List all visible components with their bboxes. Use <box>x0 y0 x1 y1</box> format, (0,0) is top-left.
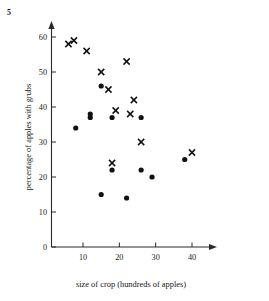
y-axis-ticks <box>52 37 57 247</box>
data-point-dot <box>139 115 144 120</box>
data-point-dot <box>88 111 93 116</box>
data-point-cross <box>84 48 90 54</box>
data-point-dot <box>149 174 154 179</box>
x-tick-label: 40 <box>188 253 196 262</box>
data-point-cross <box>65 41 71 47</box>
data-point-dot <box>73 125 78 130</box>
y-axis-arrow-icon <box>48 21 54 29</box>
x-tick-label: 30 <box>152 253 160 262</box>
scatter-plot-figure: 5 0102030405060 10203040 size of crop (h… <box>0 0 269 301</box>
x-axis-tick-labels: 10203040 <box>79 253 196 262</box>
y-axis-tick-labels: 0102030405060 <box>39 33 47 252</box>
data-point-cross <box>138 139 144 145</box>
data-point-dot <box>182 157 187 162</box>
data-point-dot <box>99 192 104 197</box>
data-point-cross <box>105 86 111 92</box>
y-tick-label: 20 <box>39 173 47 182</box>
x-axis-title: size of crop (hundreds of apples) <box>76 280 186 289</box>
data-point-cross <box>124 58 130 64</box>
data-point-dot <box>124 195 129 200</box>
x-tick-label: 20 <box>115 253 123 262</box>
x-tick-label: 10 <box>79 253 87 262</box>
y-tick-label: 40 <box>39 103 47 112</box>
data-point-cross <box>189 149 195 155</box>
y-tick-label: 30 <box>39 138 47 147</box>
y-tick-label: 50 <box>39 68 47 77</box>
y-tick-label: 10 <box>39 208 47 217</box>
data-point-cross <box>109 160 115 166</box>
data-series-crosses <box>65 37 195 166</box>
y-tick-label: 0 <box>43 243 47 252</box>
data-point-dot <box>99 83 104 88</box>
y-tick-label: 60 <box>39 33 47 42</box>
data-point-cross <box>127 111 133 117</box>
data-point-cross <box>71 37 77 43</box>
data-point-cross <box>131 97 137 103</box>
data-point-cross <box>113 107 119 113</box>
data-point-dot <box>109 167 114 172</box>
data-point-dot <box>139 167 144 172</box>
data-point-cross <box>98 69 104 75</box>
x-axis-arrow-icon <box>209 244 217 250</box>
x-axis-ticks <box>83 243 192 248</box>
scatter-plot-canvas: 0102030405060 10203040 size of crop (hun… <box>0 0 269 301</box>
data-point-dot <box>109 115 114 120</box>
y-axis-title: percentage of apples with grubs <box>24 84 33 191</box>
data-series-dots <box>73 83 187 200</box>
